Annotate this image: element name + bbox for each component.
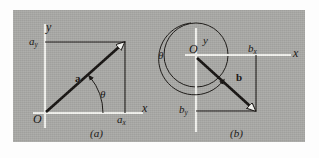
panel-b-x-axis-label: x	[293, 47, 298, 59]
panel-a-component-y-label: ay	[29, 36, 38, 47]
panel-b-component-y-base: b	[179, 103, 185, 115]
panel-a-graphics	[33, 24, 143, 128]
panel-b-component-x-subscript: x	[254, 48, 257, 56]
panel-b-angle-label: θ	[158, 50, 163, 61]
panel-a-component-x-base: a	[117, 113, 123, 125]
panel-b-origin-label: O	[189, 43, 198, 55]
panel-b-component-y-subscript: y	[185, 109, 188, 117]
panel-b-y-axis-label: y	[203, 35, 208, 46]
panel-a-caption: (a)	[90, 128, 103, 139]
panel-a-component-y-base: a	[29, 35, 35, 47]
figure-plate: y x ay ax a θ O (a) y x bx by b θ O (b)	[13, 10, 305, 142]
vector-components-figure: y x ay ax a θ O (a) y x bx by b θ O (b)	[0, 0, 319, 158]
panel-b-vector-label: b	[236, 72, 242, 83]
panel-a-vector-a	[46, 47, 119, 112]
panel-b-angle-arc	[159, 23, 223, 95]
panel-a-y-axis-label: y	[46, 21, 51, 33]
panel-b-caption: (b)	[230, 128, 243, 139]
panel-a-component-x-label: ax	[117, 114, 126, 125]
panel-a-vector-label: a	[75, 73, 81, 84]
panel-b-component-x-base: b	[248, 42, 254, 54]
panel-a-origin-label: O	[33, 113, 42, 125]
panel-a-component-x-subscript: x	[123, 119, 126, 127]
panel-b-graphics	[159, 23, 291, 132]
panel-b-component-x-label: bx	[248, 43, 257, 54]
panel-a-component-y-subscript: y	[35, 41, 38, 49]
panel-a-x-axis-label: x	[142, 102, 147, 114]
panel-a-angle-label: θ	[100, 89, 105, 100]
panel-b-component-y-label: by	[179, 104, 188, 115]
figure-vector-graphics	[13, 10, 305, 142]
